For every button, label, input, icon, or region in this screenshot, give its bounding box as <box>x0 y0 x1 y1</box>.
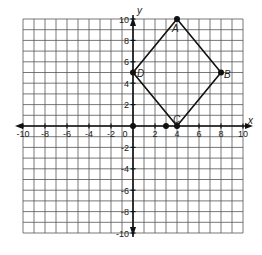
x-tick-label: -2 <box>107 129 115 139</box>
y-tick-label: -2 <box>121 143 129 153</box>
y-tick-label: 10 <box>119 15 129 25</box>
y-tick-label: 2 <box>124 100 129 110</box>
y-tick-label: -4 <box>121 164 129 174</box>
x-tick-label: 8 <box>218 129 223 139</box>
x-tick-label: -4 <box>85 129 93 139</box>
point-d <box>130 70 136 76</box>
y-axis-arrow-up-icon <box>130 17 136 26</box>
x-tick-label: -8 <box>41 129 49 139</box>
y-tick-label: -10 <box>116 229 129 239</box>
x-tick-label: 10 <box>238 129 248 139</box>
y-axis-label: y <box>136 5 143 16</box>
x-tick-label: 2 <box>152 129 157 139</box>
y-tick-label: 6 <box>124 57 129 67</box>
y-tick-label: -6 <box>121 186 129 196</box>
coordinate-plane: -10-8-6-4-20246810108642-2-4-6-8-10 ABCD… <box>0 0 262 255</box>
y-axis-arrow-down-icon <box>130 227 136 236</box>
x-tick-label: -10 <box>16 129 29 139</box>
y-tick-label: 8 <box>124 36 129 46</box>
label-c: C <box>173 114 181 125</box>
y-tick-label: -8 <box>121 207 129 217</box>
x-axis-label: x <box>247 115 254 126</box>
y-tick-label: 4 <box>124 79 129 89</box>
x-tick-label: 0 <box>122 129 127 139</box>
point-a <box>174 16 180 22</box>
x-tick-label: 6 <box>196 129 201 139</box>
label-d: D <box>137 68 144 79</box>
x-tick-label: -6 <box>63 129 71 139</box>
x-tick-label: 4 <box>174 129 179 139</box>
point <box>163 123 169 129</box>
point <box>130 123 136 129</box>
label-b: B <box>224 69 231 80</box>
label-a: A <box>171 23 179 34</box>
